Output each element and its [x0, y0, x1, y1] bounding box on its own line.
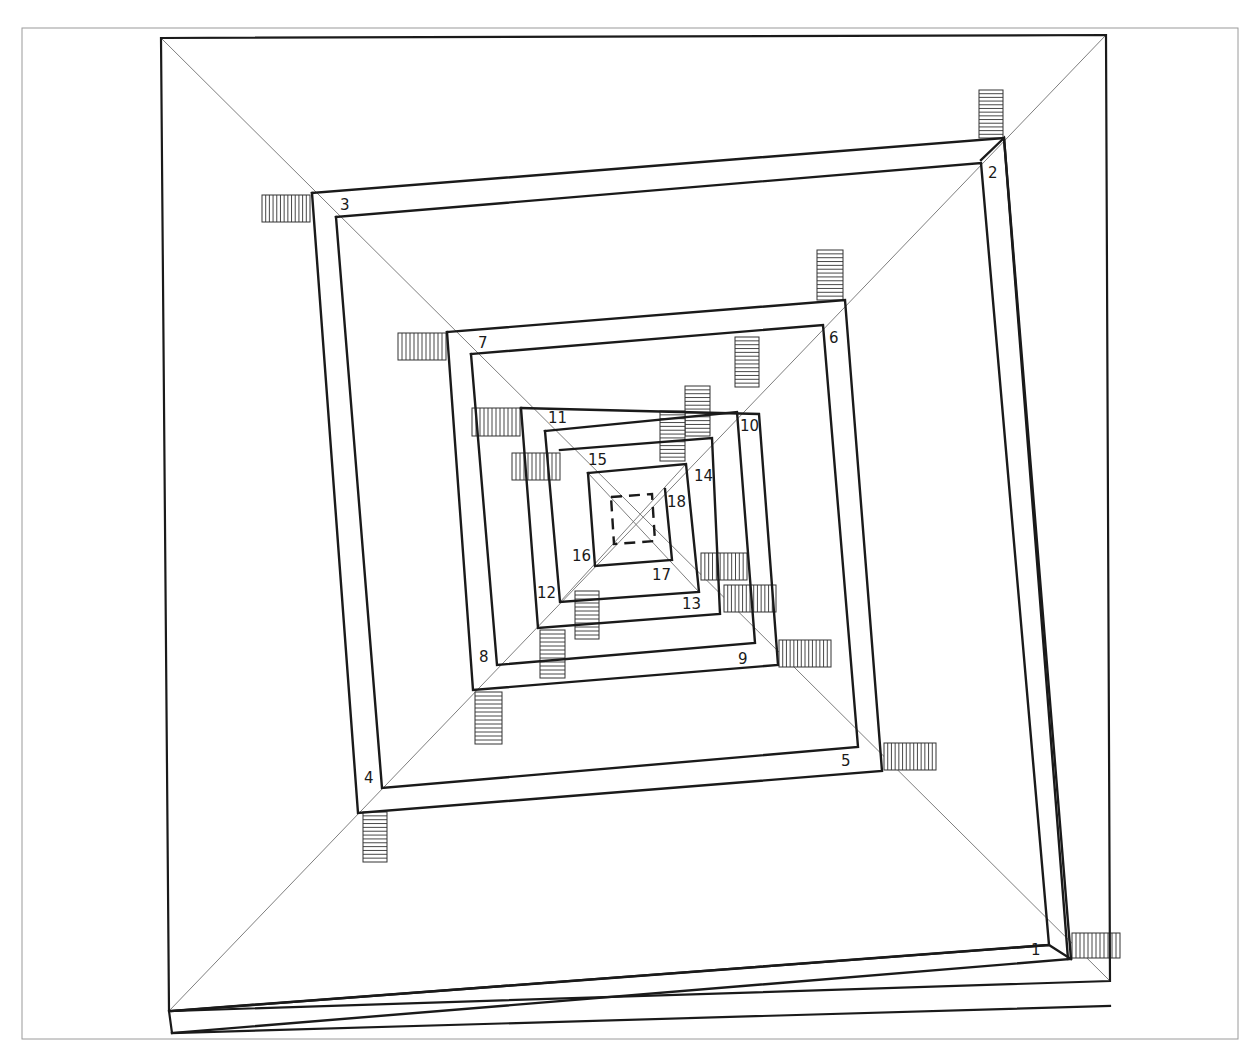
stair-12-hatch: [540, 630, 565, 678]
spiral-wall-w-outer-right: [981, 138, 1068, 959]
outer-square: [161, 35, 1110, 1011]
stair-9-hatch: [779, 640, 831, 667]
corner-label-1: 1: [1031, 941, 1041, 959]
corner-label-12: 12: [537, 584, 556, 602]
spiral-wall-ring-1-outer: [172, 138, 1071, 1033]
corner-label-5: 5: [841, 752, 851, 770]
center-dashed-square: [611, 494, 655, 544]
corner-label-15: 15: [588, 451, 607, 469]
corner-label-14: 14: [694, 467, 713, 485]
diagonal-line: [588, 473, 699, 592]
diagonal-line: [169, 35, 1106, 1011]
stair-3-hatch: [262, 195, 310, 222]
corner-label-13: 13: [682, 595, 701, 613]
stair-5-hatch: [884, 743, 936, 770]
stair-16-hatch: [575, 591, 599, 639]
stair-1-hatch: [1072, 933, 1120, 958]
stair-6-hatch: [817, 250, 843, 300]
stair-4-hatch: [363, 812, 387, 862]
corner-labels: 123456789101112131415161718: [340, 164, 1041, 959]
stair-7-hatch: [398, 333, 446, 360]
corner-label-17: 17: [652, 566, 671, 584]
stair-2-hatch: [979, 90, 1003, 138]
stair-17-hatch: [701, 553, 747, 580]
center-square: [611, 494, 655, 544]
stair-15-hatch: [512, 453, 560, 480]
corner-label-7: 7: [478, 334, 488, 352]
corner-label-9: 9: [738, 650, 748, 668]
spiral-wall-ring-2-inner: [336, 217, 858, 788]
spiral-diagram: 123456789101112131415161718: [0, 0, 1258, 1055]
stair-8-hatch: [475, 692, 502, 744]
construction-diagonals: [161, 35, 1110, 1011]
stair-14-hatch: [685, 386, 710, 436]
drawing-frame: [22, 28, 1238, 1039]
corner-label-8: 8: [479, 648, 489, 666]
corner-label-10: 10: [740, 417, 759, 435]
corner-label-11: 11: [548, 409, 567, 427]
corner-label-3: 3: [340, 196, 350, 214]
spiral-wall-ring-2-outer: [312, 193, 882, 813]
spiral-walls: [161, 35, 1110, 1033]
outer-bottom-strip: [169, 1006, 1110, 1033]
stair-10-hatch: [735, 337, 759, 387]
corner-label-18: 18: [667, 493, 686, 511]
stair-11-hatch: [472, 408, 520, 436]
corner-label-16: 16: [572, 547, 591, 565]
corner-label-2: 2: [988, 164, 998, 182]
spiral-wall-ring-1-inner: [172, 163, 1049, 1011]
corner-label-4: 4: [364, 769, 374, 787]
corner-label-6: 6: [829, 329, 839, 347]
